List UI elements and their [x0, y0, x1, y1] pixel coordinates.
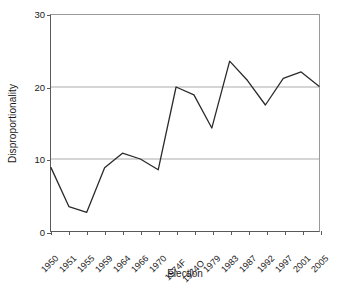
- x-tick-mark: [69, 231, 70, 235]
- x-tick-mark: [159, 231, 160, 235]
- chart-figure: Disproportionality 0102030 1950195119551…: [0, 0, 351, 285]
- x-axis-ticks: 19501951195519591964196619701974F1974O19…: [51, 15, 319, 231]
- x-tick-mark: [321, 231, 322, 235]
- x-tick-mark: [231, 231, 232, 235]
- x-tick-mark: [87, 231, 88, 235]
- x-tick-mark: [141, 231, 142, 235]
- x-tick-mark: [51, 231, 52, 235]
- x-tick-label: 2005: [324, 240, 345, 261]
- y-axis-title: Disproportionality: [6, 14, 20, 232]
- x-tick-mark: [195, 231, 196, 235]
- x-tick-mark: [267, 231, 268, 235]
- x-axis-title: Election: [50, 268, 320, 279]
- x-tick-mark: [213, 231, 214, 235]
- y-axis-title-label: Disproportionality: [8, 83, 19, 162]
- y-tick-label: 10: [34, 156, 45, 166]
- plot-area: 0102030 19501951195519591964196619701974…: [50, 14, 320, 232]
- x-tick-mark: [303, 231, 304, 235]
- x-axis-title-label: Election: [167, 268, 203, 279]
- x-tick-mark: [249, 231, 250, 235]
- x-tick-mark: [177, 231, 178, 235]
- y-tick-label: 30: [34, 10, 45, 20]
- x-tick-mark: [105, 231, 106, 235]
- y-tick-label: 0: [40, 228, 45, 238]
- x-tick-mark: [123, 231, 124, 235]
- x-tick-mark: [285, 231, 286, 235]
- y-tick-label: 20: [34, 83, 45, 93]
